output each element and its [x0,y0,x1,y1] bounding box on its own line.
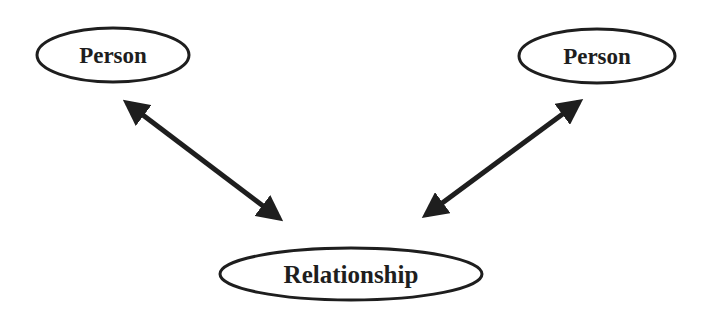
node-relationship: Relationship [220,248,482,300]
bidirectional-arrow-icon [127,103,279,218]
node-person-left-label: Person [79,43,147,68]
node-person-left: Person [37,28,189,82]
bidirectional-arrow-icon [426,102,579,215]
node-person-right: Person [519,29,675,83]
relationship-diagram: Person Person Relationship [0,0,708,321]
node-relationship-label: Relationship [284,261,419,288]
node-person-right-label: Person [563,44,631,69]
